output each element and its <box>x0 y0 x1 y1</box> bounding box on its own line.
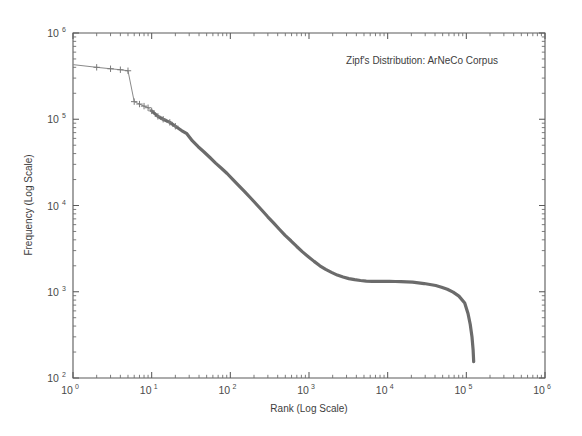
plot-frame <box>73 33 545 378</box>
figure-canvas: 100101102103104105106 102103104105106 Ra… <box>0 0 582 436</box>
y-axis-title: Frequency (Log Scale) <box>23 154 34 255</box>
x-tick-label: 10 <box>297 384 309 396</box>
x-tick-exponent: 6 <box>547 383 551 390</box>
x-axis-tick-labels: 100101102103104105106 <box>61 383 551 396</box>
y-tick-label: 10 <box>47 372 59 384</box>
y-tick-label: 10 <box>47 27 59 39</box>
y-tick-exponent: 5 <box>62 112 66 119</box>
y-tick-exponent: 2 <box>62 371 66 378</box>
x-tick-exponent: 0 <box>75 383 79 390</box>
zipf-distribution-chart: 100101102103104105106 102103104105106 Ra… <box>0 0 582 436</box>
x-tick-exponent: 3 <box>311 383 315 390</box>
data-point-marker <box>107 66 113 72</box>
x-tick-label: 10 <box>218 384 230 396</box>
x-tick-label: 10 <box>454 384 466 396</box>
data-series-group <box>73 64 474 361</box>
x-tick-exponent: 5 <box>468 383 472 390</box>
data-point-marker <box>117 67 123 73</box>
y-tick-label: 10 <box>47 200 59 212</box>
x-tick-exponent: 4 <box>390 383 394 390</box>
chart-title-annotation: Zipf's Distribution: ArNeCo Corpus <box>346 55 498 66</box>
y-tick-exponent: 6 <box>62 26 66 33</box>
zipf-curve <box>152 111 474 362</box>
data-point-marker <box>93 64 99 70</box>
y-tick-exponent: 4 <box>62 199 66 206</box>
data-point-marker <box>125 68 131 74</box>
x-tick-exponent: 1 <box>154 383 158 390</box>
x-axis-title: Rank (Log Scale) <box>270 403 347 414</box>
y-axis-ticks <box>73 33 545 378</box>
x-tick-label: 10 <box>533 384 545 396</box>
x-tick-exponent: 2 <box>232 383 236 390</box>
x-tick-label: 10 <box>140 384 152 396</box>
y-tick-label: 10 <box>47 286 59 298</box>
x-axis-ticks <box>73 33 545 378</box>
y-tick-label: 10 <box>47 113 59 125</box>
x-tick-label: 10 <box>376 384 388 396</box>
y-axis-tick-labels: 102103104105106 <box>47 26 66 384</box>
x-tick-label: 10 <box>61 384 73 396</box>
zipf-curve-markers <box>93 64 178 129</box>
y-tick-exponent: 3 <box>62 285 66 292</box>
